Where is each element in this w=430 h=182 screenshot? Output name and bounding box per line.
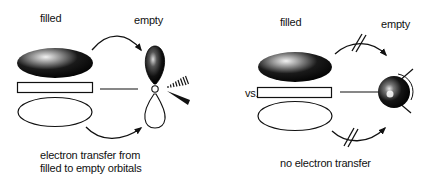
bond-rectangle-icon (18, 83, 93, 93)
right-filled-label: filled (280, 16, 302, 28)
left-caption-line2: filled to empty orbitals (40, 162, 142, 174)
right-panel: filled empty no electron transfer (258, 16, 414, 169)
vs-label: vs. (245, 87, 259, 99)
blocked-arrow-bottom-icon (332, 128, 385, 147)
transfer-arrow-bottom-icon (86, 127, 141, 138)
filled-orbital-icon (258, 52, 332, 82)
bond-rectangle-icon (258, 88, 332, 98)
left-caption-line1: electron transfer from (40, 149, 140, 161)
left-filled-label: filled (40, 12, 62, 24)
empty-orbital-icon (18, 98, 92, 127)
filled-orbital-icon (17, 48, 93, 78)
transfer-arrow-top-icon (92, 36, 141, 50)
orbital-diagram: filled empty (0, 0, 430, 182)
right-caption: no electron transfer (280, 157, 371, 169)
left-empty-label: empty (134, 14, 164, 26)
s-orbital-sphere-icon (378, 69, 413, 113)
right-empty-label: empty (381, 18, 411, 30)
empty-orbital-icon (258, 102, 332, 131)
p-orbital-icon (145, 46, 190, 128)
left-panel: filled empty (17, 12, 190, 174)
blocked-arrow-top-icon (335, 34, 386, 55)
